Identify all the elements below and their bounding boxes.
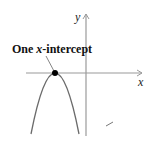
x-intercept-point [52, 70, 58, 76]
stray-mark [106, 122, 113, 126]
y-axis-label: y [74, 10, 81, 24]
graph: y x One x-intercept [0, 0, 156, 145]
x-axis-label: x [137, 75, 144, 89]
callout-label: One x-intercept [12, 42, 92, 56]
parabola-curve [31, 73, 79, 134]
